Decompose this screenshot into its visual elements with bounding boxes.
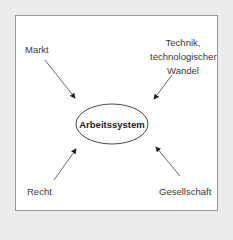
arrow-recht	[54, 149, 76, 180]
label-technik-line-1: Technik,	[150, 36, 216, 50]
label-technik-line-2: technologischer	[150, 50, 216, 64]
arrow-gesellschaft	[156, 147, 180, 176]
arrow-markt	[45, 60, 75, 98]
label-gesellschaft: Gesellschaft	[159, 185, 211, 199]
label-markt: Markt	[25, 43, 49, 57]
center-node-label: Arbeitssystem	[76, 104, 148, 144]
label-technik: Technik, technologischer Wandel	[150, 36, 216, 78]
label-technik-line-3: Wandel	[150, 64, 216, 78]
arrow-technik	[154, 75, 172, 99]
label-recht: Recht	[27, 185, 52, 199]
